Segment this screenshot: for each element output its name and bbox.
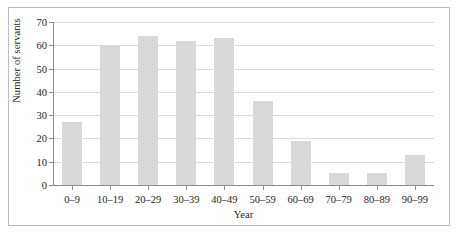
x-tick-mark — [186, 186, 187, 190]
x-tick-slot — [320, 186, 358, 194]
x-tick-mark — [224, 186, 225, 190]
bars-group — [53, 22, 434, 185]
bar-slot — [53, 22, 91, 185]
x-tick-mark — [148, 186, 149, 190]
x-tick-slot — [91, 186, 129, 194]
x-tick-slot — [396, 186, 434, 194]
x-tick-slot — [205, 186, 243, 194]
bar-slot — [282, 22, 320, 185]
bar-slot — [358, 22, 396, 185]
x-axis-tick-labels: 0–910–1920–2930–3940–4950–5960–6970–7980… — [53, 194, 434, 205]
x-axis-ticks-group — [53, 186, 434, 194]
bar — [405, 155, 425, 185]
bar-slot — [320, 22, 358, 185]
bar-slot — [91, 22, 129, 185]
x-tick-mark — [415, 186, 416, 190]
x-tick-label: 80–89 — [358, 194, 396, 205]
x-tick-label: 30–39 — [167, 194, 205, 205]
plot-area: 010203040506070 — [53, 22, 434, 186]
bar — [176, 41, 196, 185]
bar-slot — [243, 22, 281, 185]
x-tick-label: 70–79 — [320, 194, 358, 205]
x-tick-slot — [243, 186, 281, 194]
y-tick-label: 60 — [37, 40, 48, 51]
x-tick-label: 10–19 — [91, 194, 129, 205]
bar — [214, 38, 234, 185]
y-tick-label: 10 — [37, 156, 48, 167]
x-tick-label: 50–59 — [243, 194, 281, 205]
bar-slot — [129, 22, 167, 185]
y-axis-title: Number of servants — [11, 1, 22, 121]
x-tick-slot — [129, 186, 167, 194]
x-tick-label: 90–99 — [396, 194, 434, 205]
x-tick-label: 0–9 — [53, 194, 91, 205]
y-tick-label: 20 — [37, 133, 48, 144]
y-tick-label: 50 — [37, 63, 48, 74]
x-tick-mark — [301, 186, 302, 190]
x-tick-label: 40–49 — [205, 194, 243, 205]
x-tick-mark — [72, 186, 73, 190]
bar — [329, 173, 349, 185]
bar-slot — [167, 22, 205, 185]
y-tick-label: 30 — [37, 110, 48, 121]
bar — [100, 45, 120, 185]
bar — [138, 36, 158, 185]
x-tick-mark — [377, 186, 378, 190]
x-tick-label: 20–29 — [129, 194, 167, 205]
x-tick-slot — [282, 186, 320, 194]
bar — [62, 122, 82, 185]
x-tick-slot — [53, 186, 91, 194]
x-tick-mark — [339, 186, 340, 190]
x-tick-mark — [110, 186, 111, 190]
x-tick-slot — [167, 186, 205, 194]
bar — [291, 141, 311, 185]
bar — [253, 101, 273, 185]
x-axis-title: Year — [53, 209, 434, 220]
x-tick-slot — [358, 186, 396, 194]
x-tick-mark — [263, 186, 264, 190]
bar-slot — [205, 22, 243, 185]
bar-slot — [396, 22, 434, 185]
bar — [367, 173, 387, 185]
y-tick-label: 0 — [42, 180, 47, 191]
x-tick-label: 60–69 — [282, 194, 320, 205]
y-tick-label: 40 — [37, 86, 48, 97]
bar-chart-figure: Number of servants 010203040506070 0–910… — [0, 0, 458, 240]
y-tick-label: 70 — [37, 17, 48, 28]
